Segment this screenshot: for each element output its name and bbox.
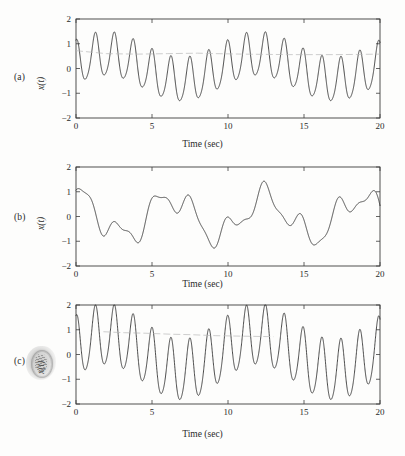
x-tick-label: 15 xyxy=(300,269,310,279)
signal-trace xyxy=(76,181,380,248)
x-tick-label: 10 xyxy=(224,269,234,279)
signal-trace xyxy=(76,32,380,101)
x-tick-label: 5 xyxy=(150,121,155,131)
y-tick-label: −1 xyxy=(61,236,71,246)
y-tick-label: 2 xyxy=(67,300,72,310)
signal-trace xyxy=(76,305,380,400)
y-tick-label: 0 xyxy=(67,350,72,360)
x-tick-label: 5 xyxy=(150,407,155,417)
x-axis-label-a: Time (sec) xyxy=(0,139,405,149)
panel-a: (a) x(t) 05101520−2−1012 Time (sec) xyxy=(0,8,405,156)
x-tick-label: 10 xyxy=(224,121,234,131)
y-tick-label: 2 xyxy=(67,14,72,24)
figure-container: (a) x(t) 05101520−2−1012 Time (sec) (b) … xyxy=(0,0,405,456)
x-axis-label-b: Time (sec) xyxy=(0,279,405,289)
panel-b: (b) x(t) 05101520−2−1012 Time (sec) xyxy=(0,156,405,296)
y-tick-label: 1 xyxy=(67,187,72,197)
y-tick-label: 1 xyxy=(67,39,72,49)
y-tick-label: 0 xyxy=(67,64,72,74)
panel-c: (c) x(t) 05101520−2−1012 Time (sec) xyxy=(0,294,405,446)
x-tick-label: 0 xyxy=(74,269,79,279)
plot-a: 05101520−2−1012 xyxy=(0,8,405,160)
y-tick-label: −1 xyxy=(61,88,71,98)
faint-artifact-line xyxy=(76,51,380,55)
y-tick-label: 1 xyxy=(67,325,72,335)
x-tick-label: 20 xyxy=(376,269,386,279)
x-tick-label: 5 xyxy=(150,269,155,279)
x-tick-label: 20 xyxy=(376,407,386,417)
y-tick-label: 2 xyxy=(67,162,72,172)
x-tick-label: 0 xyxy=(74,407,79,417)
x-tick-label: 0 xyxy=(74,121,79,131)
x-tick-label: 10 xyxy=(224,407,234,417)
x-tick-label: 15 xyxy=(300,407,310,417)
x-tick-label: 15 xyxy=(300,121,310,131)
y-tick-label: 0 xyxy=(67,212,72,222)
y-tick-label: −2 xyxy=(61,113,71,123)
faint-artifact-line xyxy=(103,332,273,337)
x-axis-label-c: Time (sec) xyxy=(0,429,405,439)
y-tick-label: −2 xyxy=(61,261,71,271)
y-tick-label: −2 xyxy=(61,399,71,409)
plot-c: 05101520−2−1012 xyxy=(0,294,405,446)
x-tick-label: 20 xyxy=(376,121,386,131)
y-tick-label: −1 xyxy=(61,374,71,384)
